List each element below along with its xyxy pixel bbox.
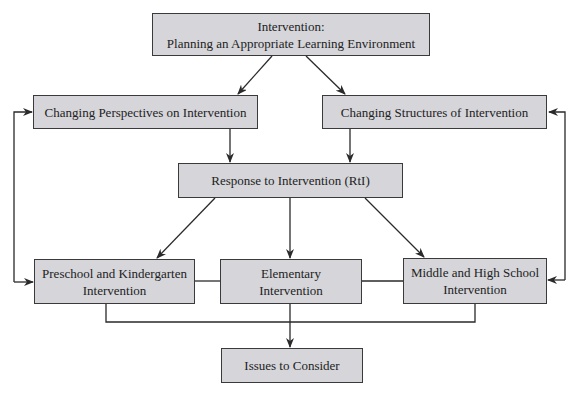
node-label-line2: Intervention: [443, 281, 507, 298]
node-response-to-intervention: Response to Intervention (RtI): [178, 163, 403, 198]
node-issues-to-consider: Issues to Consider: [221, 348, 363, 383]
node-preschool-kindergarten: Preschool and Kindergarten Intervention: [34, 259, 195, 304]
node-changing-perspectives: Changing Perspectives on Intervention: [33, 95, 258, 129]
node-label: Changing Perspectives on Intervention: [45, 104, 247, 121]
node-middle-high-school: Middle and High School Intervention: [403, 258, 547, 304]
node-label-line2: Intervention: [259, 282, 323, 299]
node-title-line2: Planning an Appropriate Learning Environ…: [167, 35, 415, 52]
node-label: Issues to Consider: [244, 357, 339, 374]
node-changing-structures: Changing Structures of Intervention: [322, 95, 547, 129]
node-label-line1: Elementary: [261, 265, 321, 282]
node-label-line2: Intervention: [83, 282, 147, 299]
node-elementary: Elementary Intervention: [220, 259, 362, 304]
node-planning-learning-environment: Intervention: Planning an Appropriate Le…: [152, 13, 430, 56]
node-title-line1: Intervention:: [257, 18, 324, 35]
node-label-line1: Middle and High School: [411, 264, 539, 281]
node-label-line1: Preschool and Kindergarten: [42, 265, 187, 282]
node-label: Response to Intervention (RtI): [211, 172, 370, 189]
node-label: Changing Structures of Intervention: [341, 104, 528, 121]
